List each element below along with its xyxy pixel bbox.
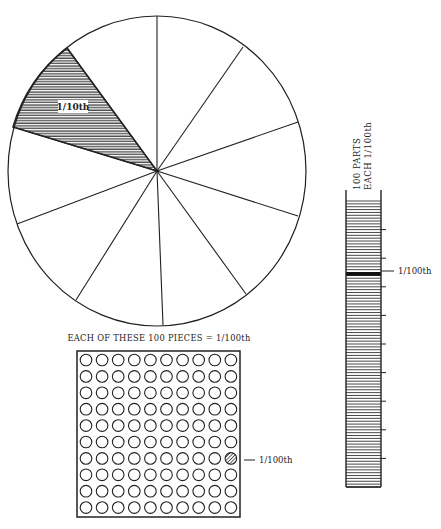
fractions-diagram: 1/10th EACH OF THESE 100 PIECES = 1/100t… [0, 0, 441, 529]
pie-slice-label: 1/10th [57, 102, 90, 112]
grid-piece [177, 502, 189, 514]
grid-piece [96, 436, 108, 448]
grid-piece [177, 371, 189, 383]
grid-piece [193, 469, 205, 481]
grid-piece [96, 453, 108, 465]
column-title-line2: EACH 1/100th [363, 122, 373, 190]
grid-caption: EACH OF THESE 100 PIECES = 1/100th [67, 333, 251, 343]
grid-piece [145, 387, 157, 399]
column-title: 100 PARTS EACH 1/100th [352, 122, 373, 190]
grid-piece [80, 502, 92, 514]
grid-piece [161, 354, 173, 366]
pie-spoke [157, 122, 298, 171]
grid-piece [145, 453, 157, 465]
grid-piece [209, 387, 221, 399]
hundred-pieces-grid [80, 354, 237, 513]
grid-piece [177, 453, 189, 465]
grid-piece [161, 387, 173, 399]
grid-piece [112, 485, 124, 497]
grid-piece [209, 371, 221, 383]
grid-piece [145, 469, 157, 481]
grid-piece [145, 354, 157, 366]
grid-piece [112, 354, 124, 366]
grid-piece [177, 485, 189, 497]
grid-piece [129, 420, 141, 432]
grid-piece [225, 469, 237, 481]
grid-piece [225, 485, 237, 497]
grid-piece [177, 354, 189, 366]
grid-piece [80, 485, 92, 497]
grid-piece [145, 502, 157, 514]
grid-piece [209, 354, 221, 366]
grid-piece [209, 420, 221, 432]
grid-piece [96, 502, 108, 514]
grid-piece [225, 387, 237, 399]
pie-label-box: 1/10th [57, 100, 90, 113]
grid-piece [80, 403, 92, 415]
pie-spoke [157, 47, 243, 171]
grid-piece [96, 354, 108, 366]
grid-piece [80, 469, 92, 481]
grid-pointer-label: 1/100th [259, 455, 293, 465]
pie-spoke [17, 171, 157, 224]
grid-piece [80, 453, 92, 465]
grid-piece [129, 436, 141, 448]
grid-piece [112, 436, 124, 448]
grid-piece [177, 403, 189, 415]
grid-piece [80, 371, 92, 383]
pie-spoke [157, 171, 163, 325]
pie-spoke [157, 171, 246, 294]
grid-piece [225, 354, 237, 366]
grid-piece [129, 502, 141, 514]
grid-piece [112, 469, 124, 481]
column-part-highlighted [346, 272, 381, 276]
grid-piece [193, 387, 205, 399]
grid-piece [193, 420, 205, 432]
grid-piece [80, 387, 92, 399]
grid-piece [209, 485, 221, 497]
grid-piece [129, 403, 141, 415]
grid-piece [161, 502, 173, 514]
grid-piece [96, 485, 108, 497]
grid-piece [161, 436, 173, 448]
grid-piece [112, 453, 124, 465]
grid-frame [77, 351, 240, 517]
grid-piece [80, 436, 92, 448]
grid-piece [225, 436, 237, 448]
grid-piece [209, 502, 221, 514]
grid-piece [177, 420, 189, 432]
grid-piece [225, 502, 237, 514]
grid-piece [161, 485, 173, 497]
hundred-parts-column [346, 190, 386, 487]
grid-piece [177, 387, 189, 399]
grid-piece [112, 502, 124, 514]
grid-piece [129, 387, 141, 399]
grid-piece [145, 371, 157, 383]
grid-piece [129, 485, 141, 497]
grid-piece [161, 371, 173, 383]
grid-piece [193, 502, 205, 514]
grid-piece [145, 420, 157, 432]
grid-piece [96, 469, 108, 481]
pie-spoke [157, 171, 298, 216]
grid-piece [145, 403, 157, 415]
grid-piece [96, 371, 108, 383]
grid-piece [145, 436, 157, 448]
column-pointer-label: 1/100th [398, 266, 432, 276]
grid-piece [129, 453, 141, 465]
grid-piece [225, 403, 237, 415]
grid-piece [177, 436, 189, 448]
grid-piece [112, 403, 124, 415]
grid-piece [161, 420, 173, 432]
grid-piece [80, 354, 92, 366]
grid-piece [161, 403, 173, 415]
grid-piece [193, 485, 205, 497]
grid-piece [129, 371, 141, 383]
grid-piece [193, 453, 205, 465]
grid-piece [193, 436, 205, 448]
grid-piece [193, 354, 205, 366]
grid-piece [96, 387, 108, 399]
grid-piece [112, 420, 124, 432]
grid-piece [225, 371, 237, 383]
grid-piece [112, 387, 124, 399]
